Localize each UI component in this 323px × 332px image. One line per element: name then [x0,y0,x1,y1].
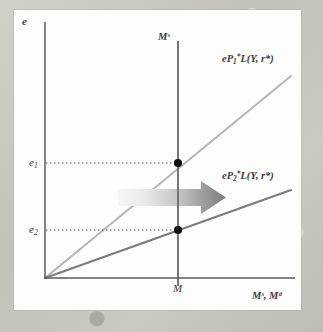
x-axis-label: Mˢ, Mᵈ [252,291,282,302]
curve1-post: L(Y, r*) [240,53,273,64]
curve-ep1-label: eP1*L(Y, r*) [222,53,274,65]
equilibrium-point-1 [174,159,182,167]
shift-arrow-icon [118,181,226,214]
curve-ep2-label: eP2*L(Y, r*) [222,170,274,182]
curve2-pre: eP [222,170,233,181]
y-axis-tick-e2: e2 [29,224,38,237]
tick-e1-sub: 1 [34,161,38,170]
x-axis-tick-M: M [173,283,182,294]
y-axis-tick-e1: e1 [29,157,38,170]
diagram-svg [0,0,323,332]
curve1-pre: eP [222,53,233,64]
tick-e2-sub: 2 [34,228,38,237]
y-axis-label: e [22,16,27,27]
equilibrium-point-2 [174,226,182,234]
figure-canvas: e Mˢ, Mᵈ Mˢ M e1 e2 eP1*L(Y, r*) eP2*L(Y… [0,0,323,332]
curve2-post: L(Y, r*) [240,170,273,181]
money-supply-label: Mˢ [158,32,170,43]
